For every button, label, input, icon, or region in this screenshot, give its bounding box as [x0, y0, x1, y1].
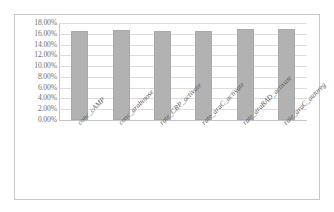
- bar-rate_araBAD_activate: [237, 29, 254, 120]
- gridline-18-00pct: [59, 23, 307, 24]
- bar-conc_arabinose: [113, 30, 130, 120]
- bar-rate_araC_activate: [195, 31, 212, 120]
- bar-rate_CRP_activate: [154, 31, 171, 120]
- y-tick-label: 16.00%: [15, 30, 57, 38]
- y-tick-label: 12.00%: [15, 51, 57, 59]
- gridline-12-00pct: [59, 55, 307, 56]
- gridline-14-00pct: [59, 45, 307, 46]
- y-tick-label: 0.00%: [15, 116, 57, 124]
- y-tick-label: 2.00%: [15, 105, 57, 113]
- gridline-16-00pct: [59, 34, 307, 35]
- y-axis-tick-labels: 0.00%2.00%4.00%6.00%8.00%10.00%12.00%14.…: [15, 23, 57, 120]
- gridline-10-00pct: [59, 66, 307, 67]
- gridline-6-00pct: [59, 88, 307, 89]
- y-tick-label: 14.00%: [15, 41, 57, 49]
- y-tick-label: 8.00%: [15, 73, 57, 81]
- y-tick-label: 18.00%: [15, 19, 57, 27]
- bar-conc_cAMP: [71, 31, 88, 120]
- y-tick-label: 6.00%: [15, 84, 57, 92]
- chart-frame: 0.00%2.00%4.00%6.00%8.00%10.00%12.00%14.…: [14, 14, 320, 200]
- y-tick-label: 4.00%: [15, 94, 57, 102]
- gridline-8-00pct: [59, 77, 307, 78]
- y-tick-label: 10.00%: [15, 62, 57, 70]
- x-axis-category-labels: conc_cAMPconc_arabinoserate_CRP_activate…: [59, 121, 307, 199]
